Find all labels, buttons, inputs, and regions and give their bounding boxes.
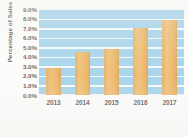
y-tick-label: 6.0% (13, 34, 37, 41)
y-tick-label: 3.0% (13, 63, 37, 70)
y-tick-label: 0.0% (13, 92, 37, 99)
x-tick-label-2016: 2016 (126, 98, 155, 107)
x-tick-label-2013: 2013 (39, 98, 68, 107)
bar-2014 (75, 52, 90, 95)
y-tick-label: 2.0% (13, 72, 37, 79)
y-tick-label: 7.0% (13, 25, 37, 32)
y-tick-label: 9.0% (13, 6, 37, 13)
x-tick-label-2015: 2015 (97, 98, 126, 107)
y-tick-label: 8.0% (13, 15, 37, 22)
bars-group (39, 9, 184, 95)
y-axis-tick-labels: 0.0%1.0%2.0%3.0%4.0%5.0%6.0%7.0%8.0%9.0% (13, 9, 37, 95)
x-axis-tick-labels: 20132014201520162017 (39, 98, 184, 110)
x-tick-label-2014: 2014 (68, 98, 97, 107)
bar-2013 (46, 68, 61, 95)
plot-area (39, 9, 184, 95)
y-tick-label: 5.0% (13, 44, 37, 51)
bar-2016 (133, 28, 148, 95)
x-tick-label-2017: 2017 (155, 98, 184, 107)
bar-chart-figure: Percentage of Sales 0.0%1.0%2.0%3.0%4.0%… (0, 0, 188, 137)
y-tick-label: 4.0% (13, 53, 37, 60)
y-tick-label: 1.0% (13, 82, 37, 89)
bar-2017 (162, 20, 177, 95)
bar-2015 (104, 49, 119, 95)
